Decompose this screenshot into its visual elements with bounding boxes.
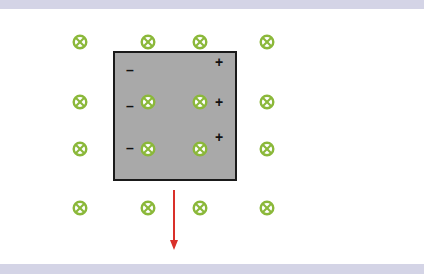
velocity-arrow-icon: [0, 0, 424, 274]
bottom-band: [0, 264, 424, 274]
